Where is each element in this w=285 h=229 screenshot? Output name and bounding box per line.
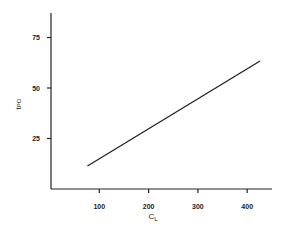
y-ticks: 255075 xyxy=(32,34,51,142)
x-tick-label: 100 xyxy=(93,203,105,210)
data-line xyxy=(87,61,260,166)
x-ticks: 100200300400 xyxy=(93,189,253,210)
chart: 255075 100200300400 CL tPO xyxy=(0,0,285,229)
x-tick-label: 300 xyxy=(192,203,204,210)
y-axis-label: tPO xyxy=(14,98,23,109)
x-tick-label: 400 xyxy=(241,203,253,210)
y-tick-label: 75 xyxy=(32,34,40,41)
y-tick-label: 50 xyxy=(32,85,40,92)
x-axis-label: CL xyxy=(148,212,158,222)
x-tick-label: 200 xyxy=(143,203,155,210)
y-tick-label: 25 xyxy=(32,135,40,142)
